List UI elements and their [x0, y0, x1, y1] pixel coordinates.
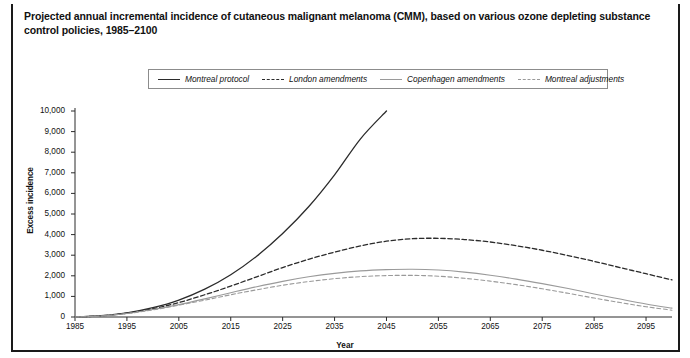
x-axis-tick-label: 2065 [470, 322, 510, 331]
series-line-montreal-adjustments [75, 275, 672, 317]
x-axis-tick-label: 2075 [522, 322, 562, 331]
x-axis-tick-label: 2045 [366, 322, 406, 331]
y-axis-tick-label: 3,000 [19, 250, 65, 259]
x-axis-tick-label: 1995 [107, 322, 147, 331]
x-axis-tick-label: 2005 [159, 322, 199, 331]
x-axis-tick-label: 2035 [315, 322, 355, 331]
y-axis-tick-label: 9,000 [19, 127, 65, 136]
y-axis-tick-label: 8,000 [19, 147, 65, 156]
x-axis-tick-label: 1985 [55, 322, 95, 331]
y-axis-tick-label: 6,000 [19, 188, 65, 197]
x-axis-tick-label: 2055 [418, 322, 458, 331]
x-axis-tick-label: 2025 [263, 322, 303, 331]
x-axis-tick-label: 2095 [626, 322, 666, 331]
y-axis-tick-label: 7,000 [19, 168, 65, 177]
y-axis-tick-label: 2,000 [19, 271, 65, 280]
figure-container: Projected annual incremental incidence o… [0, 0, 690, 358]
y-axis-tick-label: 5,000 [19, 209, 65, 218]
x-axis-tick-label: 2015 [211, 322, 251, 331]
y-axis-tick-label: 10,000 [19, 106, 65, 115]
x-axis-tick-label: 2085 [574, 322, 614, 331]
y-axis-tick-label: 4,000 [19, 230, 65, 239]
y-axis-tick-label: 0 [19, 312, 65, 321]
chart-plot-area [0, 0, 690, 358]
y-axis-tick-label: 1,000 [19, 291, 65, 300]
series-line-copenhagen-amendments [75, 269, 672, 317]
